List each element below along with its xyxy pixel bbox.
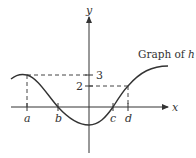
x-point-d-label: d — [125, 112, 132, 125]
y-axis-label: y — [85, 4, 93, 17]
x-point-a-label: a — [24, 112, 31, 125]
graph-of-h-diagram: x y 3 2 a b c d Graph of h — [0, 0, 196, 158]
x-point-c-label: c — [110, 112, 116, 125]
y-level-3-label: 3 — [96, 69, 103, 82]
y-level-2-label: 2 — [76, 80, 83, 93]
graph-title-prefix: Graph of — [138, 48, 188, 60]
x-axis-label: x — [172, 101, 179, 114]
graph-title: Graph of h — [138, 48, 195, 60]
graph-title-function: h — [188, 48, 195, 60]
x-point-b-label: b — [55, 112, 62, 125]
